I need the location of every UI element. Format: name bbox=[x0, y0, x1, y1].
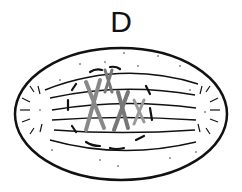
aster-left bbox=[20, 86, 42, 134]
chromosomes bbox=[86, 70, 144, 130]
cell-diagram bbox=[0, 0, 242, 192]
aster-right bbox=[198, 86, 220, 134]
